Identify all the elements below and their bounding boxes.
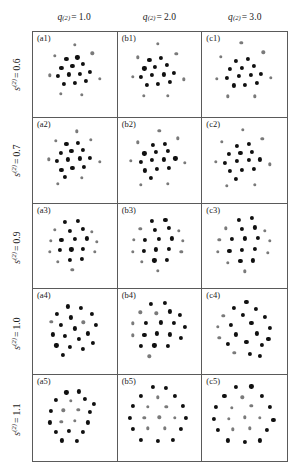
data-point xyxy=(244,300,248,304)
data-point xyxy=(91,341,95,345)
data-point xyxy=(61,409,64,412)
data-point xyxy=(246,57,250,61)
data-point xyxy=(249,384,253,388)
data-point xyxy=(81,62,85,66)
data-point xyxy=(227,417,230,420)
data-point xyxy=(80,93,83,96)
data-point xyxy=(71,268,74,271)
row-header-text: s(2)=0.6 xyxy=(10,57,22,90)
row-header-equals: = xyxy=(12,245,22,250)
data-point xyxy=(90,230,93,233)
scatter-panel-a2: (a2) xyxy=(33,118,118,204)
data-point xyxy=(74,439,78,443)
data-point xyxy=(266,336,270,340)
column-header-superscript: (2) xyxy=(62,14,70,21)
data-point xyxy=(56,74,60,78)
scatter-area-b1 xyxy=(118,32,202,117)
data-point xyxy=(248,352,252,356)
data-point xyxy=(139,160,143,164)
scatter-area-c2 xyxy=(202,118,287,203)
data-point xyxy=(149,176,153,180)
data-point xyxy=(184,416,188,420)
data-point xyxy=(83,397,87,401)
column-header-equals: = xyxy=(71,12,76,22)
data-point xyxy=(81,148,85,152)
data-point xyxy=(263,314,267,318)
row-header-value: 0.9 xyxy=(12,231,22,243)
data-point xyxy=(68,257,72,261)
data-point xyxy=(268,405,272,409)
data-point xyxy=(250,150,254,154)
data-point xyxy=(215,428,219,432)
data-point xyxy=(167,246,171,250)
data-point xyxy=(155,167,159,171)
data-point xyxy=(89,312,93,316)
data-point xyxy=(182,78,185,81)
data-point xyxy=(162,142,166,146)
data-point xyxy=(167,226,171,230)
data-point xyxy=(156,439,160,443)
data-point xyxy=(63,220,67,224)
data-point xyxy=(79,257,83,261)
data-point xyxy=(50,320,53,323)
data-point xyxy=(142,66,146,70)
data-point xyxy=(136,56,139,59)
data-point xyxy=(268,239,271,242)
row-header-s-4: s(2)=1.0 xyxy=(0,290,32,376)
scatter-area-b3 xyxy=(118,204,202,289)
data-point xyxy=(164,386,168,390)
data-point xyxy=(81,347,85,351)
row-header-symbol: s xyxy=(12,173,22,177)
data-point xyxy=(240,227,244,231)
data-point xyxy=(98,160,101,163)
row-header-equals: = xyxy=(12,417,22,422)
data-point xyxy=(153,65,157,69)
data-point xyxy=(156,42,159,45)
data-point xyxy=(268,163,271,166)
data-point xyxy=(139,75,143,79)
data-point xyxy=(60,438,64,442)
data-point xyxy=(59,150,63,154)
data-point xyxy=(78,156,82,160)
data-point xyxy=(150,158,154,162)
data-point xyxy=(240,66,244,70)
data-point xyxy=(70,166,74,170)
data-point xyxy=(139,227,142,230)
column-header-equals: = xyxy=(242,12,247,22)
data-point xyxy=(48,74,51,77)
data-point xyxy=(243,270,246,273)
data-point xyxy=(92,401,96,405)
data-point xyxy=(253,225,257,229)
row-header-s-1: s(2)=0.6 xyxy=(0,31,32,117)
data-point xyxy=(77,336,81,340)
data-point xyxy=(227,249,231,253)
data-point xyxy=(248,427,251,430)
row-header-equals: = xyxy=(12,73,22,78)
data-point xyxy=(73,237,77,241)
column-header-superscript: (2) xyxy=(148,14,156,21)
data-point xyxy=(258,438,262,442)
panel-grid: (a1)(b1)(c1)(a2)(b2)(c2)(a3)(b3)(c3)(a4)… xyxy=(32,31,288,462)
data-point xyxy=(146,405,149,408)
data-point xyxy=(271,418,275,422)
data-point xyxy=(73,419,76,422)
data-point xyxy=(230,237,234,241)
data-point xyxy=(81,321,84,324)
data-point xyxy=(54,343,58,347)
row-header-text: s(2)=0.7 xyxy=(10,144,22,177)
scatter-area-c1 xyxy=(202,32,287,117)
data-point xyxy=(263,229,266,232)
data-point xyxy=(234,177,238,181)
data-point xyxy=(158,129,161,132)
data-point xyxy=(256,235,260,239)
data-point xyxy=(243,82,247,86)
data-point xyxy=(70,64,74,68)
data-point xyxy=(55,312,59,316)
data-point xyxy=(145,82,149,86)
data-point xyxy=(162,157,166,161)
data-point xyxy=(254,307,258,311)
data-point xyxy=(216,250,219,253)
data-point xyxy=(176,136,179,139)
row-header-symbol: s xyxy=(12,87,22,91)
data-point xyxy=(56,182,59,185)
